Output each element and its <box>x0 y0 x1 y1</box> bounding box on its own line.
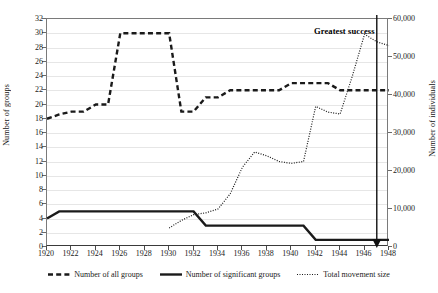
x-axis-tick: 1936 <box>233 249 249 258</box>
y-axis-left-tick: 28 <box>35 42 43 51</box>
y-axis-left-tick: 6 <box>39 199 43 208</box>
legend-swatch-dotted <box>297 271 319 278</box>
y-axis-left-tick: 14 <box>35 142 43 151</box>
y-axis-left-ticklabels: 02468101214161820222426283032 <box>16 18 43 246</box>
x-axis-tick: 1926 <box>111 249 127 258</box>
y-axis-left-tick: 20 <box>35 99 43 108</box>
plot-area <box>46 18 388 246</box>
y-axis-left-tick: 18 <box>35 113 43 122</box>
y-axis-left-tick: 2 <box>39 227 43 236</box>
y-axis-right-tick: 50,000 <box>393 52 415 61</box>
y-axis-left-tick: 30 <box>35 28 43 37</box>
x-axis-tick: 1928 <box>136 249 152 258</box>
y-axis-right-tick: 30,000 <box>393 128 415 137</box>
series-layer <box>47 19 389 247</box>
y-axis-right-tick: 60,000 <box>393 14 415 23</box>
y-axis-right-tick: 20,000 <box>393 166 415 175</box>
x-axis-tick: 1930 <box>160 249 176 258</box>
series-line-dotted <box>169 34 389 228</box>
y-axis-left-tick: 32 <box>35 14 43 23</box>
y-axis-left-tick: 16 <box>35 128 43 137</box>
y-axis-left-tick: 4 <box>39 213 43 222</box>
x-axis-tick: 1932 <box>185 249 201 258</box>
x-axis-tick: 1946 <box>356 249 372 258</box>
y-axis-left-tick: 10 <box>35 170 43 179</box>
x-axis-tick: 1940 <box>282 249 298 258</box>
x-axis-tick: 1920 <box>38 249 54 258</box>
y-axis-left-tick: 26 <box>35 56 43 65</box>
x-axis-tick: 1934 <box>209 249 225 258</box>
y-axis-right-ticklabels: 010,00020,00030,00040,00050,00060,000 <box>393 18 431 246</box>
legend-swatch-dashed <box>48 271 70 278</box>
legend-item-0[interactable]: Number of all groups <box>48 270 143 279</box>
legend-swatch-solid <box>160 271 182 278</box>
y-axis-right-tick: 40,000 <box>393 90 415 99</box>
x-axis-tick: 1922 <box>62 249 78 258</box>
x-axis-tick: 1948 <box>380 249 396 258</box>
chart-container: Number of groups Number of individuals 0… <box>0 0 438 293</box>
x-axis-tick: 1944 <box>331 249 347 258</box>
legend-label: Total movement size <box>323 270 390 279</box>
x-axis-ticklabels: 1920192219241926192819301932193419361938… <box>46 249 388 261</box>
y-axis-left-tick: 24 <box>35 71 43 80</box>
y-axis-right-tick: 10,000 <box>393 204 415 213</box>
x-axis-tick: 1924 <box>87 249 103 258</box>
y-axis-left-tick: 22 <box>35 85 43 94</box>
y-axis-left-tick: 12 <box>35 156 43 165</box>
legend-item-2[interactable]: Total movement size <box>297 270 390 279</box>
legend-item-1[interactable]: Number of significant groups <box>160 270 280 279</box>
y-axis-left-tick: 8 <box>39 185 43 194</box>
chart-legend: Number of all groupsNumber of significan… <box>0 270 438 279</box>
series-line-dashed <box>47 33 389 119</box>
legend-label: Number of significant groups <box>186 270 280 279</box>
legend-label: Number of all groups <box>74 270 143 279</box>
series-line-solid <box>47 211 389 240</box>
y-axis-left-title: Number of groups <box>2 84 11 146</box>
x-axis-tick: 1938 <box>258 249 274 258</box>
annotation-greatest-success: Greatest success <box>314 26 375 36</box>
x-axis-tick: 1942 <box>307 249 323 258</box>
